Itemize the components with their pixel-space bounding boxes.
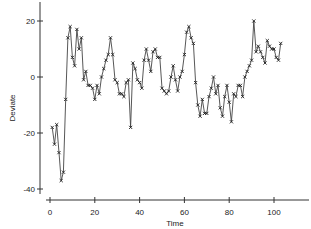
x-tick-label: 100: [267, 208, 281, 217]
y-axis-title: Deviate: [8, 94, 17, 122]
x-tick-label: 40: [135, 208, 144, 217]
x-tick-label: 20: [90, 208, 99, 217]
x-tick-label: 80: [225, 208, 234, 217]
series-line: [52, 21, 281, 181]
x-tick-label: 60: [180, 208, 189, 217]
y-tick-label: 20: [26, 17, 35, 26]
line-chart: -40-20020 Deviate 020406080100 Time: [0, 0, 311, 229]
y-tick-label: -40: [23, 185, 35, 194]
series-markers: [51, 19, 283, 182]
x-tick-label: 0: [48, 208, 53, 217]
x-axis-title: Time: [166, 219, 184, 228]
y-tick-label: 0: [31, 73, 36, 82]
y-tick-label: -20: [23, 129, 35, 138]
